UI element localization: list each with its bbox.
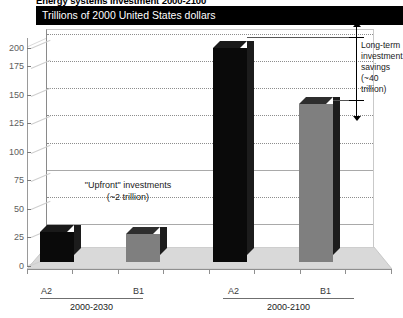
arrow-shaft-upper (356, 22, 357, 38)
group-label-2000-2030: 2000-2030 (40, 302, 143, 312)
annotation-upfront-line1: "Upfront" investments (58, 180, 198, 192)
bar-a2-2000-2100 (213, 41, 247, 262)
x-tick-5 (254, 269, 255, 274)
x-tick-1 (72, 269, 73, 274)
bar-b1-2000-2030 (126, 227, 160, 262)
y-tick-label-175: 175 (2, 61, 24, 71)
y-tick-label-125: 125 (2, 118, 24, 128)
x-category-label-b1-2000-2100: B1 (320, 286, 331, 296)
arrow-shaft-lower (356, 100, 357, 116)
bar-a2-2000-2030 (40, 225, 74, 262)
x-category-label-b1-2000-2030: B1 (133, 286, 144, 296)
y-tick-label-150: 150 (2, 90, 24, 100)
bar-b1-2000-2100 (299, 97, 333, 262)
y-tick-label-25: 25 (2, 232, 24, 242)
y-tick-label-50: 50 (2, 204, 24, 214)
group-rule-2000-2030 (40, 298, 143, 299)
group-rule-2000-2100 (223, 298, 354, 299)
annotation-savings-line3: savings (361, 62, 403, 73)
x-tick-3 (163, 269, 164, 274)
arrow-shaft-middle (356, 37, 357, 101)
annotation-upfront-line2: (~2 trillion) (58, 192, 198, 204)
x-tick-7 (345, 269, 346, 274)
x-tick-8 (391, 269, 392, 274)
x-tick-4 (209, 269, 210, 274)
x-tick-6 (300, 269, 301, 274)
annotation-savings-line1: Long-term (361, 40, 403, 51)
annotation-savings-line2: investment (361, 51, 403, 62)
annotation-upfront: "Upfront" investments (~2 trillion) (58, 180, 198, 203)
chart-subtitle-label: Trillions of 2000 United States dollars (42, 9, 216, 21)
annotation-savings: Long-term investment savings (~40 trilli… (361, 40, 403, 95)
gridline-200 (47, 34, 373, 35)
annotation-savings-line4: (~40 trillion) (361, 73, 403, 95)
y-tick-label-75: 75 (2, 175, 24, 185)
y-tick-label-0: 0 (2, 261, 24, 271)
annotation-leader-top (247, 37, 357, 38)
x-category-label-a2-2000-2030: A2 (41, 286, 52, 296)
x-category-label-a2-2000-2100: A2 (228, 286, 239, 296)
y-tick-label-200: 200 (2, 43, 24, 53)
y-tick-label-100: 100 (2, 147, 24, 157)
x-tick-0 (27, 269, 28, 274)
chart-figure: Energy systems investment 2000-2100 Tril… (0, 0, 403, 318)
arrow-down-head (353, 116, 361, 121)
group-label-2000-2100: 2000-2100 (223, 302, 354, 312)
gridline-175 (47, 61, 373, 62)
chart-subtitle-band: Trillions of 2000 United States dollars (36, 6, 403, 25)
gridline-150 (47, 88, 373, 89)
x-tick-2 (118, 269, 119, 274)
